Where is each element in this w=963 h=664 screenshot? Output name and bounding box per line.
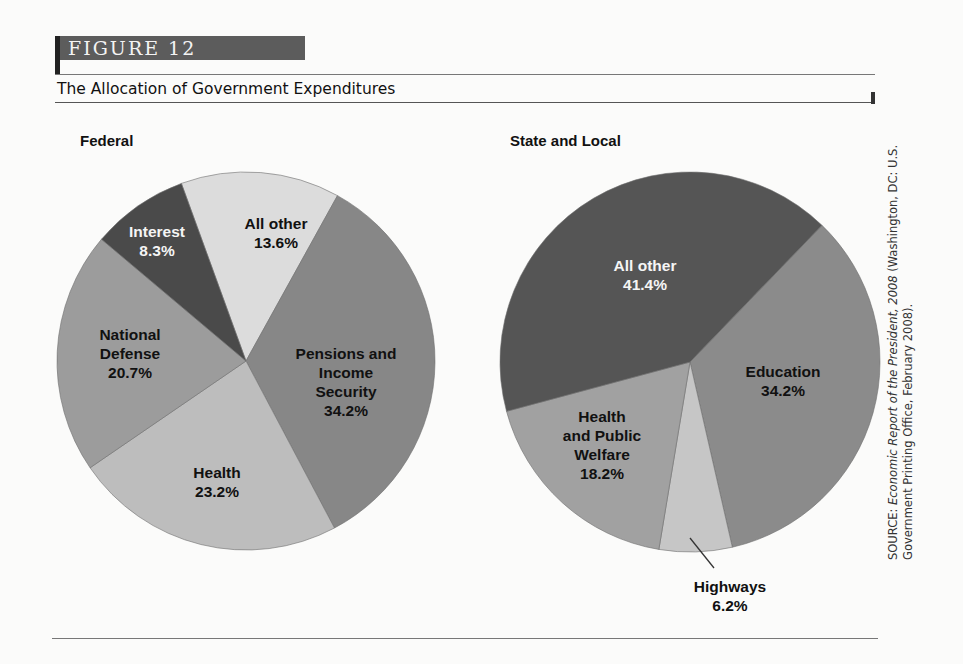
label-value: 6.2% (694, 596, 766, 615)
label-value: 8.3% (129, 241, 185, 260)
label-value: 13.6% (245, 233, 308, 252)
label-value: 20.7% (99, 363, 160, 382)
label-state-welfare: Health and Public Welfare 18.2% (563, 407, 641, 483)
label-name: Health (193, 463, 240, 482)
label-name: Defense (99, 344, 160, 363)
label-state-education: Education 34.2% (746, 362, 821, 400)
label-name: Income (296, 363, 397, 382)
source-note: SOURCE: Economic Report of the President… (886, 100, 916, 560)
label-value: 18.2% (563, 464, 641, 483)
label-federal-all-other: All other 13.6% (245, 214, 308, 252)
label-value: 23.2% (193, 482, 240, 501)
label-value: 34.2% (746, 381, 821, 400)
state-pie (500, 172, 880, 552)
label-name: Education (746, 362, 821, 381)
label-name: Highways (694, 577, 766, 596)
label-name: All other (245, 214, 308, 233)
label-name: All other (614, 256, 677, 275)
label-value: 41.4% (614, 275, 677, 294)
label-value: 34.2% (296, 401, 397, 420)
source-prefix: SOURCE: (886, 505, 900, 560)
source-publisher: (Washington, DC: U.S. (886, 145, 900, 275)
label-federal-pensions: Pensions and Income Security 34.2% (296, 344, 397, 420)
label-state-all-other: All other 41.4% (614, 256, 677, 294)
source-publisher-line2: Government Printing Office, February 200… (901, 100, 916, 560)
label-name: Pensions and (296, 344, 397, 363)
label-federal-health: Health 23.2% (193, 463, 240, 501)
label-name: National (99, 325, 160, 344)
label-name: Health (563, 407, 641, 426)
rule-bottom (52, 638, 878, 639)
label-federal-defense: National Defense 20.7% (99, 325, 160, 382)
label-name: Interest (129, 222, 185, 241)
label-name: Security (296, 382, 397, 401)
label-name: and Public (563, 426, 641, 445)
label-state-highways: Highways 6.2% (694, 577, 766, 615)
label-name: Welfare (563, 445, 641, 464)
source-title: Economic Report of the President, 2008 (886, 275, 900, 505)
label-federal-interest: Interest 8.3% (129, 222, 185, 260)
